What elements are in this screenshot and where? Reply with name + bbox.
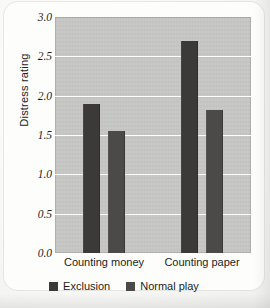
bar-normal-play-counting-paper bbox=[206, 110, 223, 253]
gridline-2.5 bbox=[55, 56, 251, 57]
y-tick-2.0: 2.0 bbox=[14, 90, 52, 102]
x-tick-counting-paper: Counting paper bbox=[164, 256, 239, 268]
legend-swatch-icon bbox=[126, 282, 135, 291]
y-axis-tick-labels: 0.00.51.01.52.02.53.0 bbox=[14, 10, 52, 260]
bar-exclusion-counting-paper bbox=[181, 41, 198, 253]
y-tick-1.0: 1.0 bbox=[14, 168, 52, 180]
plot-area bbox=[55, 17, 251, 253]
y-tick-3.0: 3.0 bbox=[14, 11, 52, 23]
chart-legend: ExclusionNormal play bbox=[0, 280, 248, 292]
legend-label: Exclusion bbox=[63, 280, 110, 292]
gridline-2.0 bbox=[55, 96, 251, 97]
x-tick-counting-money: Counting money bbox=[64, 256, 144, 268]
bar-exclusion-counting-money bbox=[83, 104, 100, 253]
y-tick-1.5: 1.5 bbox=[14, 129, 52, 141]
bar-normal-play-counting-money bbox=[108, 131, 125, 253]
legend-item-normal-play: Normal play bbox=[126, 280, 199, 292]
legend-label: Normal play bbox=[140, 280, 199, 292]
legend-item-exclusion: Exclusion bbox=[49, 280, 110, 292]
y-tick-0.0: 0.0 bbox=[14, 247, 52, 259]
x-axis-tick-labels: Counting moneyCounting paper bbox=[55, 256, 251, 276]
legend-swatch-icon bbox=[49, 282, 58, 291]
y-tick-0.5: 0.5 bbox=[14, 208, 52, 220]
y-tick-2.5: 2.5 bbox=[14, 50, 52, 62]
bar-chart-figure: Distress rating 0.00.51.01.52.02.53.0 Co… bbox=[0, 0, 270, 308]
